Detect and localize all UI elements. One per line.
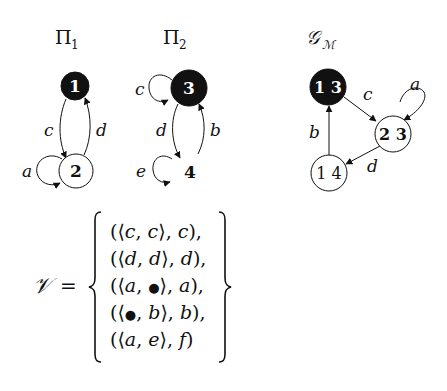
state-node-1[interactable]: 1 xyxy=(61,72,89,100)
state-node-4[interactable]: 4 xyxy=(184,162,196,182)
equation-rows: (⟨c, c⟩, c),(⟨d, d⟩, d),(⟨a, ●⟩, a),(⟨●,… xyxy=(110,220,206,350)
graph-title-pi1: Π 1 xyxy=(55,26,79,52)
equation-row: (⟨d, d⟩, d), xyxy=(110,247,206,269)
state-node-3[interactable]: 3 xyxy=(171,70,207,106)
graph-title-gm: 𝒢 ℳ xyxy=(306,26,337,52)
edge-label: d xyxy=(156,120,167,140)
node-label: 1 3 xyxy=(314,78,342,97)
punctuation: , xyxy=(136,328,148,350)
edge-label: b xyxy=(210,120,221,140)
title-subscript: 2 xyxy=(179,38,187,52)
node-label: 2 xyxy=(70,161,82,181)
graph-title-pi2: Π 2 xyxy=(163,26,187,52)
title-main: 𝒢 xyxy=(306,26,323,48)
symbol: a xyxy=(179,274,190,296)
symbol: d xyxy=(181,247,193,269)
punctuation: ), xyxy=(192,301,205,323)
edge-4-self xyxy=(153,156,172,182)
edge-4-to-3 xyxy=(198,104,204,154)
diagram-canvas: Π 1 Π 2 𝒢 ℳ c d a 1 2 c d xyxy=(0,0,447,391)
equation-row: (⟨a, ●⟩, a), xyxy=(110,274,204,296)
edge-1-to-2 xyxy=(60,99,66,158)
punctuation: , xyxy=(137,247,149,269)
punctuation: (⟨ xyxy=(110,328,125,350)
node-label: 1 xyxy=(69,76,81,96)
edge-label: b xyxy=(309,122,320,142)
state-node-13[interactable]: 1 3 xyxy=(310,69,346,105)
symbol: c xyxy=(148,220,159,242)
left-brace xyxy=(89,212,101,362)
symbol: a xyxy=(125,274,136,296)
equation-v: 𝒱 = (⟨c, c⟩, c),(⟨d, d⟩, d),(⟨a, ●⟩, a),… xyxy=(33,212,231,362)
edge-label: c xyxy=(363,84,373,104)
punctuation: ⟩, xyxy=(158,220,178,242)
title-main: Π xyxy=(163,26,180,48)
punctuation: ⟩, xyxy=(160,301,180,323)
punctuation: ), xyxy=(190,274,203,296)
punctuation: (⟨ xyxy=(110,274,125,296)
graph-pi2: c d b e 3 4 xyxy=(135,70,221,183)
title-main: Π xyxy=(55,26,72,48)
symbol: b xyxy=(180,301,192,323)
edge-label: e xyxy=(136,161,146,181)
punctuation: (⟨ xyxy=(110,301,125,323)
edge-3-to-4 xyxy=(173,104,180,158)
punctuation: ) xyxy=(186,328,193,350)
title-subscript: 1 xyxy=(71,38,79,52)
equation-equals: = xyxy=(60,274,77,298)
edge-label: a xyxy=(410,74,420,94)
graph-pi1: c d a 1 2 xyxy=(22,72,107,188)
symbol: c xyxy=(178,220,189,242)
edge-label: c xyxy=(135,79,145,99)
punctuation: , xyxy=(135,220,147,242)
bullet-symbol: ● xyxy=(148,280,159,295)
state-node-14[interactable]: 1 4 xyxy=(311,155,347,191)
symbol: a xyxy=(125,328,136,350)
edge-label: c xyxy=(44,120,54,140)
punctuation: ⟩, xyxy=(160,274,180,296)
equation-row: (⟨●, b⟩, b), xyxy=(110,301,206,323)
punctuation: ⟩, xyxy=(160,328,180,350)
bullet-symbol: ● xyxy=(125,307,136,322)
edge-label: a xyxy=(22,161,32,181)
symbol: e xyxy=(148,328,159,350)
symbol: b xyxy=(148,301,160,323)
node-label: 2 3 xyxy=(379,125,407,144)
graph-gm: c a d b 1 3 2 3 1 4 xyxy=(309,69,425,191)
punctuation: ), xyxy=(188,220,201,242)
punctuation: (⟨ xyxy=(110,220,125,242)
equation-row: (⟨c, c⟩, c), xyxy=(110,220,202,242)
node-label: 4 xyxy=(184,162,196,182)
symbol: d xyxy=(149,247,161,269)
edge-3-self xyxy=(149,75,172,102)
state-node-2[interactable]: 2 xyxy=(59,154,93,188)
equation-lhs: 𝒱 xyxy=(33,273,58,298)
edge-2-self xyxy=(37,156,62,185)
symbol: c xyxy=(125,220,136,242)
title-subscript: ℳ xyxy=(322,38,337,52)
state-node-23[interactable]: 2 3 xyxy=(375,116,411,152)
punctuation: ), xyxy=(193,247,206,269)
punctuation: , xyxy=(136,274,148,296)
node-label: 3 xyxy=(183,78,195,98)
equation-row: (⟨a, e⟩, f) xyxy=(110,328,193,350)
punctuation: , xyxy=(136,301,148,323)
punctuation: (⟨ xyxy=(110,247,125,269)
node-label: 1 4 xyxy=(316,164,341,183)
right-brace xyxy=(219,212,231,362)
edge-label: d xyxy=(367,156,378,176)
edge-label: d xyxy=(96,120,107,140)
edge-2-to-1 xyxy=(84,98,90,155)
punctuation: ⟩, xyxy=(161,247,181,269)
symbol: d xyxy=(125,247,137,269)
